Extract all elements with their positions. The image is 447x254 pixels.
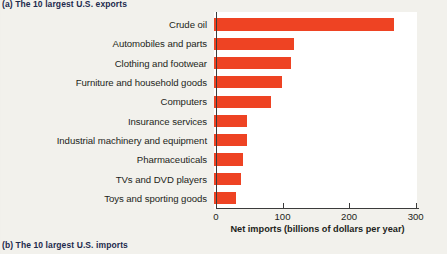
chart-row: Automobiles and parts xyxy=(0,34,421,53)
chart-row: Toys and sporting goods xyxy=(0,189,421,208)
bar-crude-oil xyxy=(214,18,394,30)
bar-insurance-services xyxy=(214,115,247,127)
x-tick-mark xyxy=(283,203,284,209)
bar-track xyxy=(212,15,421,34)
bar-clothing-and-footwear xyxy=(214,57,291,69)
chart-row: Crude oil xyxy=(0,15,421,34)
x-tick-label: 200 xyxy=(341,211,357,222)
category-label: Insurance services xyxy=(0,116,212,127)
bar-track xyxy=(212,73,421,92)
chart-row: Industrial machinery and equipment xyxy=(0,131,421,150)
bar-toys-and-sporting-goods xyxy=(214,192,236,204)
category-label: Pharmaceuticals xyxy=(0,154,212,165)
bar-track xyxy=(212,34,421,53)
bar-chart: Crude oil Automobiles and parts Clothing… xyxy=(0,12,421,212)
x-tick-mark xyxy=(216,203,217,209)
category-label: Computers xyxy=(0,96,212,107)
panel-a-caption: (a) The 10 largest U.S. exports xyxy=(2,0,127,9)
x-tick-label: 100 xyxy=(275,211,291,222)
chart-row: Computers xyxy=(0,92,421,111)
y-axis-line xyxy=(216,12,217,209)
category-label: Furniture and household goods xyxy=(0,77,212,88)
bar-tvs-and-dvd-players xyxy=(214,173,241,185)
x-tick-mark xyxy=(349,203,350,209)
bar-furniture-and-household-goods xyxy=(214,76,282,88)
category-label: Clothing and footwear xyxy=(0,58,212,69)
category-label: Crude oil xyxy=(0,19,212,30)
x-axis-line xyxy=(216,208,419,209)
bar-track xyxy=(212,111,421,130)
panel-b-caption: (b) The 10 largest U.S. imports xyxy=(2,240,128,250)
chart-row: Pharmaceuticals xyxy=(0,150,421,169)
x-tick-label: 300 xyxy=(408,211,424,222)
bar-rows: Crude oil Automobiles and parts Clothing… xyxy=(0,15,421,208)
category-label: TVs and DVD players xyxy=(0,174,212,185)
bar-pharmaceuticals xyxy=(214,153,243,165)
chart-row: Clothing and footwear xyxy=(0,54,421,73)
category-label: Toys and sporting goods xyxy=(0,193,212,204)
x-tick-mark xyxy=(416,203,417,209)
bar-computers xyxy=(214,96,271,108)
chart-row: Furniture and household goods xyxy=(0,73,421,92)
bar-track xyxy=(212,169,421,188)
bar-track xyxy=(212,131,421,150)
chart-row: Insurance services xyxy=(0,111,421,130)
bar-industrial-machinery-and-equipment xyxy=(214,134,247,146)
bar-automobiles-and-parts xyxy=(214,38,294,50)
x-tick-label: 0 xyxy=(213,211,218,222)
chart-row: TVs and DVD players xyxy=(0,169,421,188)
category-label: Industrial machinery and equipment xyxy=(0,135,212,146)
x-axis-title: Net imports (billions of dollars per yea… xyxy=(216,224,419,234)
bar-track xyxy=(212,189,421,208)
bar-track xyxy=(212,54,421,73)
category-label: Automobiles and parts xyxy=(0,38,212,49)
bar-track xyxy=(212,150,421,169)
bar-track xyxy=(212,92,421,111)
